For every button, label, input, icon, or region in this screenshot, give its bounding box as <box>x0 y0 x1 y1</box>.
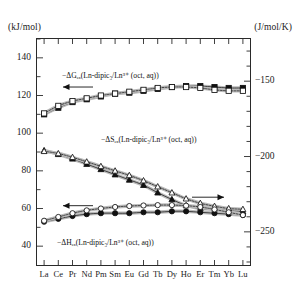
axis-direction-arrow <box>63 84 93 90</box>
axis-direction-arrow <box>63 203 93 209</box>
annotation-gibbs: −ΔGₑₓ(Ln-dipic₃/Ln³⁺ (oct, aq)) <box>62 71 159 80</box>
right-tick-200: −200 <box>255 151 285 161</box>
right-tick-250: −250 <box>255 226 285 236</box>
right-axis-unit-label: (J/mol/K) <box>254 22 292 32</box>
x-tick-Lu: Lu <box>230 269 256 279</box>
right-tick-150: −150 <box>255 75 285 85</box>
left-axis-unit-label: (kJ/mol) <box>8 22 41 32</box>
annotation-entropy: −ΔSₑₓ(Ln-dipic₃/Ln³⁺ (oct, aq)) <box>101 135 196 144</box>
markers-open-triangle <box>41 148 246 211</box>
left-tick-120: 120 <box>5 90 31 100</box>
left-tick-60: 60 <box>5 203 31 213</box>
markers-open-square <box>42 84 246 116</box>
annotation-enthalpy: −ΔHₑₓ(Ln-dipic₃/Ln³⁺ (oct, aq)) <box>57 238 154 247</box>
left-tick-100: 100 <box>5 127 31 137</box>
chart-figure: (kJ/mol) (J/mol/K) 140120100806040 −150−… <box>0 0 298 301</box>
left-tick-80: 80 <box>5 165 31 175</box>
axis-direction-arrow <box>192 194 224 200</box>
left-tick-40: 40 <box>5 240 31 250</box>
left-tick-140: 140 <box>5 52 31 62</box>
